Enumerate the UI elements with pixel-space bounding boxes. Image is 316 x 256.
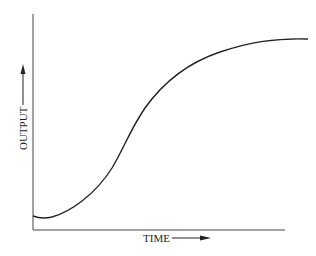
y-arrow-icon	[21, 64, 26, 74]
y-axis-label: OUTPUT	[17, 106, 29, 150]
x-arrow-icon	[200, 236, 211, 241]
x-axis-label: TIME	[143, 232, 170, 244]
output-curve	[33, 39, 308, 218]
chart: OUTPUT TIME	[0, 0, 316, 256]
